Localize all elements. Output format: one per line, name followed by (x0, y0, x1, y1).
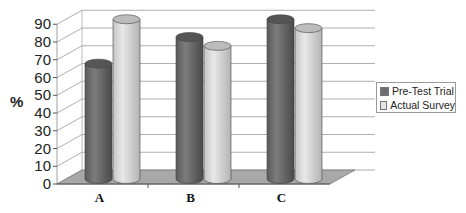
bar-body (295, 28, 322, 183)
y-tick-label: 40 (34, 104, 51, 121)
y-tick-label: 60 (34, 69, 51, 86)
gridline-side (57, 10, 82, 24)
gridline-side (57, 28, 82, 42)
x-category-label: C (277, 190, 286, 205)
bar-C-actual-survey (295, 24, 322, 184)
bar-top (113, 15, 140, 24)
bar-body (85, 64, 112, 184)
gridline-side (57, 46, 82, 60)
legend-label: Actual Survey (390, 99, 455, 111)
bar-top (85, 59, 112, 68)
bar-B-actual-survey (204, 41, 231, 183)
bar-body (176, 37, 203, 184)
bar-A-actual-survey (113, 15, 140, 184)
legend-item-pre-test: Pre-Test Trial (380, 84, 455, 98)
legend-label: Pre-Test Trial (392, 85, 454, 97)
x-axis-categories: ABC (95, 184, 286, 205)
y-tick-label: 30 (34, 122, 51, 139)
gridline-side (57, 117, 82, 131)
legend: Pre-Test Trial Actual Survey (376, 82, 456, 113)
y-tick-label: 70 (34, 51, 51, 68)
bar-top (176, 33, 203, 42)
bar-top (295, 24, 322, 33)
gridline-side (57, 99, 82, 113)
gridline-side (57, 152, 82, 166)
legend-swatch-actual-survey (380, 101, 387, 110)
bar-A-pre-test (85, 59, 112, 183)
y-axis-label: % (10, 93, 23, 110)
x-category-label: A (95, 190, 105, 205)
legend-item-actual-survey: Actual Survey (380, 98, 455, 112)
y-axis-ticks: 0102030405060708090 (34, 15, 57, 192)
bar-C-pre-test (267, 15, 294, 184)
y-tick-label: 90 (34, 15, 51, 32)
bar-body (204, 46, 231, 184)
bar-body (267, 19, 294, 183)
bar-body (113, 19, 140, 183)
bar-top (204, 41, 231, 50)
y-tick-label: 50 (34, 86, 51, 103)
gridline-side (57, 64, 82, 78)
y-tick-label: 80 (34, 33, 51, 50)
gridline-side (57, 135, 82, 149)
legend-swatch-pre-test (380, 87, 389, 96)
y-tick-label: 0 (43, 175, 51, 192)
y-tick-label: 20 (34, 140, 51, 157)
gridline-side (57, 81, 82, 95)
bar-B-pre-test (176, 33, 203, 184)
bar-top (267, 15, 294, 24)
y-tick-label: 10 (34, 157, 51, 174)
x-category-label: B (186, 190, 195, 205)
